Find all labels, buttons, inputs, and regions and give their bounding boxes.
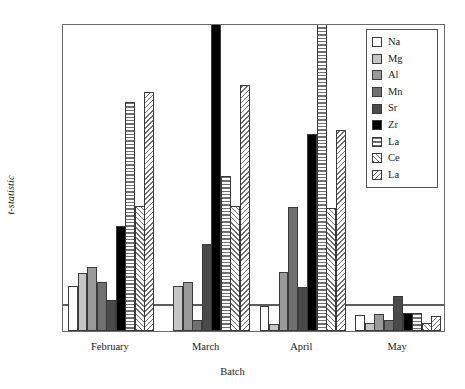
legend-item-ce-7[interactable]: Ce (372, 150, 434, 167)
bar-february-la-6 (125, 102, 135, 331)
legend-item-mn-3[interactable]: Mn (372, 84, 434, 101)
legend-item-la-6[interactable]: La (372, 134, 434, 151)
bar-march-sr-4 (202, 244, 212, 331)
y-axis-tick: 20 (62, 179, 63, 180)
bar-chart: t-statistic 0510152025303540 Batch NaMgA… (0, 0, 465, 389)
legend-item-na-0[interactable]: Na (372, 34, 434, 51)
bar-march-al-2 (183, 282, 193, 331)
y-axis-tick: 25 (62, 140, 63, 141)
legend-item-label: La (388, 137, 399, 148)
x-axis-label: Batch (0, 366, 465, 377)
bar-may-ce-7 (422, 323, 432, 331)
y-axis-tick-mark (62, 101, 63, 102)
bar-february-la-8 (144, 92, 154, 331)
legend-item-label: Zr (388, 120, 398, 131)
legend-swatch-icon (372, 170, 382, 180)
bar-february-sr-4 (106, 300, 116, 331)
y-axis-tick-mark (62, 63, 63, 64)
y-axis-tick: 40 (62, 25, 63, 26)
y-axis-tick: 15 (62, 217, 63, 218)
bar-february-al-2 (87, 267, 97, 331)
x-axis-category-label: February (91, 341, 129, 352)
legend-item-label: Ce (388, 153, 400, 164)
legend-item-label: La (388, 170, 399, 181)
legend-swatch-icon (372, 137, 382, 147)
x-axis-category-label: May (388, 341, 407, 352)
bar-march-la-8 (240, 85, 250, 331)
bar-march-mn-3 (192, 320, 202, 331)
bar-april-al-2 (279, 272, 289, 331)
legend-swatch-icon (372, 70, 382, 80)
bar-may-sr-4 (393, 296, 403, 331)
bar-may-la-8 (431, 316, 441, 331)
bar-may-mn-3 (384, 320, 394, 331)
y-axis-label: t-statistic (5, 150, 16, 240)
y-axis-tick-mark (62, 255, 63, 256)
bar-february-ce-7 (135, 206, 145, 332)
bar-march-mg-1 (173, 286, 183, 331)
bar-may-mg-1 (365, 323, 375, 331)
legend-item-label: Al (388, 70, 399, 81)
bar-april-sr-4 (298, 287, 308, 331)
legend-item-label: Sr (388, 103, 397, 114)
y-axis-tick-mark (62, 24, 63, 25)
y-axis-tick-mark (62, 217, 63, 218)
y-axis-tick: 10 (62, 256, 63, 257)
x-axis-category-label: April (290, 341, 312, 352)
bar-may-zr-5 (403, 313, 413, 331)
legend-swatch-icon (372, 120, 382, 130)
legend-item-mg-1[interactable]: Mg (372, 51, 434, 68)
y-axis-tick-mark (62, 140, 63, 141)
bar-may-la-6 (412, 313, 422, 331)
bar-april-la-8 (336, 130, 346, 331)
bar-april-mn-3 (288, 207, 298, 331)
y-axis-tick: 30 (62, 102, 63, 103)
bar-april-la-6 (317, 24, 327, 331)
y-axis-tick-mark (62, 178, 63, 179)
bar-april-mg-1 (269, 324, 279, 331)
bar-march-ce-7 (230, 206, 240, 331)
legend-swatch-icon (372, 54, 382, 64)
y-axis-tick: 35 (62, 63, 63, 64)
legend-item-al-2[interactable]: Al (372, 67, 434, 84)
bar-march-la-6 (221, 176, 231, 331)
y-axis-tick: 5 (62, 294, 63, 295)
legend-swatch-icon (372, 37, 382, 47)
x-axis-category-label: March (192, 341, 219, 352)
bar-march-zr-5 (211, 24, 221, 331)
bar-april-ce-7 (326, 208, 336, 331)
legend-swatch-icon (372, 87, 382, 97)
bar-april-na-0 (260, 306, 270, 331)
legend-item-la-8[interactable]: La (372, 167, 434, 184)
legend-item-zr-5[interactable]: Zr (372, 117, 434, 134)
legend-item-label: Mn (388, 87, 403, 98)
bar-february-mg-1 (78, 273, 88, 331)
bar-may-al-2 (374, 314, 384, 331)
legend-item-sr-4[interactable]: Sr (372, 100, 434, 117)
legend-item-label: Mg (388, 54, 403, 65)
bar-february-na-0 (68, 286, 78, 331)
bar-february-mn-3 (97, 282, 107, 331)
y-axis-tick-mark (62, 294, 63, 295)
legend-swatch-icon (372, 104, 382, 114)
bar-april-zr-5 (307, 134, 317, 331)
legend-swatch-icon (372, 153, 382, 163)
bar-may-na-0 (355, 315, 365, 331)
legend: NaMgAlMnSrZrLaCeLa (366, 29, 438, 188)
bar-february-zr-5 (116, 226, 126, 331)
legend-item-label: Na (388, 37, 400, 48)
